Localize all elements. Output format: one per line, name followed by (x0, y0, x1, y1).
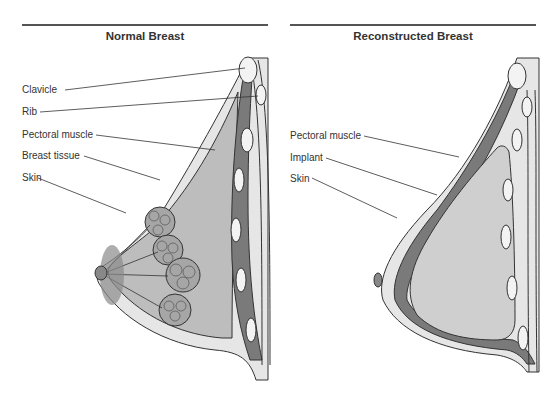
reconstructed-breast-panel: Reconstructed Breast Pectoral muscle I (277, 0, 554, 403)
label-implant: Implant (290, 152, 323, 163)
label-skin: Skin (22, 172, 41, 183)
label-skin: Skin (290, 173, 309, 184)
normal-breast-panel: Normal Breast (0, 0, 277, 403)
label-pectoral-muscle: Pectoral muscle (22, 129, 93, 140)
label-pectoral-muscle: Pectoral muscle (290, 130, 361, 141)
label-clavicle: Clavicle (22, 84, 57, 95)
normal-breast-illustration (0, 0, 277, 403)
label-breast-tissue: Breast tissue (22, 150, 80, 161)
reconstructed-breast-illustration (277, 0, 554, 403)
label-rib: Rib (22, 106, 37, 117)
